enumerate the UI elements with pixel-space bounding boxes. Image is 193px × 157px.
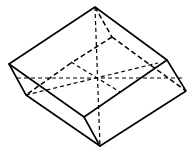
- hidden-edge-top-back: [95, 7, 112, 37]
- hidden-edge-back-right: [112, 37, 186, 91]
- diagonal-line-2: [71, 62, 120, 92]
- hidden-edge-back-left: [71, 37, 112, 63]
- hidden-edge-left: [26, 63, 71, 95]
- prism-diagram: [0, 0, 193, 157]
- visible-edges: [9, 7, 186, 146]
- hidden-edges: [17, 7, 186, 146]
- right-side-edges: [100, 60, 186, 146]
- left-side-edges: [9, 64, 100, 146]
